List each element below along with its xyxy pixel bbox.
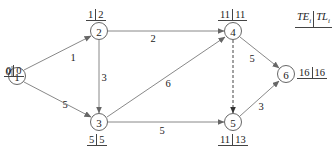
node-2-te-value: 1 [86, 9, 95, 20]
node-4: 4 [225, 23, 242, 40]
edge-4-6 [240, 37, 279, 68]
node-3-tl-value: 5 [97, 134, 106, 145]
node-1-tl-value: 0 [14, 65, 23, 76]
edge-weight-5-6: 3 [258, 101, 263, 112]
node-5-time-label: 1113 [218, 134, 248, 146]
node-4-tl-value: 11 [233, 9, 247, 20]
edge-1-3 [24, 82, 91, 117]
edge-weight-1-3: 5 [62, 99, 67, 110]
node-6: 6 [278, 66, 295, 83]
edge-weight-2-3: 3 [101, 72, 106, 83]
node-3: 3 [91, 114, 108, 131]
edge-weight-3-4: 6 [165, 78, 170, 89]
node-3-label: 3 [96, 117, 102, 129]
node-5-label: 5 [230, 117, 236, 129]
node-4-te-value: 11 [218, 9, 232, 20]
edge-weight-3-5: 5 [159, 125, 164, 136]
legend: TEiTLi [295, 11, 332, 28]
node-3-time-label: 55 [87, 134, 107, 146]
node-2-time-label: 12 [86, 9, 106, 21]
node-5: 5 [225, 114, 242, 131]
node-2-label: 2 [96, 26, 102, 38]
node-6-tl-value: 16 [313, 67, 328, 78]
node-4-time-label: 1111 [218, 9, 247, 21]
edge-weight-4-6: 5 [249, 53, 254, 64]
edge-weight-2-4: 2 [150, 33, 155, 44]
legend-tl: TLi [314, 11, 332, 27]
edge-1-2 [24, 36, 91, 70]
node-3-te-value: 5 [87, 134, 96, 145]
node-6-time-label: 1616 [297, 67, 327, 79]
node-1-te-value: 0 [4, 65, 13, 76]
node-5-tl-value: 13 [233, 134, 248, 145]
node-1-time-label: 00 [4, 65, 24, 77]
legend-te: TEi [295, 11, 313, 27]
node-2-tl-value: 2 [96, 9, 105, 20]
node-4-label: 4 [230, 26, 236, 38]
edge-weight-1-2: 1 [70, 52, 75, 63]
node-2: 2 [91, 23, 108, 40]
node-5-te-value: 11 [218, 134, 232, 145]
network-diagram: 1 5 3 2 6 5 5 3 1 2 3 4 5 6 0 0 0 [0, 0, 335, 158]
node-6-te-value: 16 [297, 67, 312, 78]
node-6-label: 6 [283, 69, 289, 81]
